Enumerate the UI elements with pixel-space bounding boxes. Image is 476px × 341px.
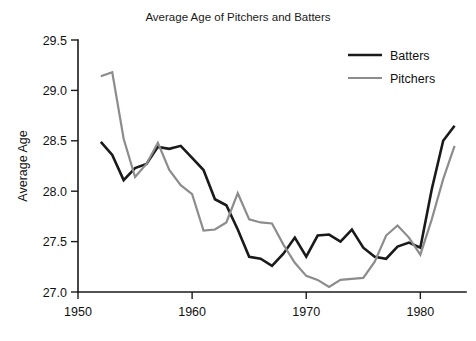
y-tick-label: 27.0 — [43, 286, 67, 300]
series-line-pitchers — [101, 72, 455, 287]
y-tick-label: 28.0 — [43, 185, 67, 199]
series-group — [101, 72, 455, 287]
chart-container: Average Age of Pitchers and Batters Aver… — [0, 0, 476, 341]
series-line-batters — [101, 126, 455, 266]
y-tick-label: 29.0 — [43, 84, 67, 98]
line-chart: Average Age of Pitchers and Batters Aver… — [0, 0, 476, 341]
y-axis-label: Average Age — [16, 130, 30, 201]
x-tick-label: 1980 — [406, 305, 434, 319]
x-tick-label: 1950 — [64, 305, 92, 319]
y-tick-label: 29.5 — [43, 34, 67, 48]
x-tick-group: 1950196019701980 — [64, 292, 434, 319]
legend-label-batters: Batters — [390, 49, 430, 63]
y-tick-label: 27.5 — [43, 235, 67, 249]
x-tick-label: 1960 — [178, 305, 206, 319]
chart-legend: BattersPitchers — [348, 49, 435, 86]
y-axis: 27.027.528.028.529.029.5 — [43, 34, 78, 300]
legend-label-pitchers: Pitchers — [390, 72, 435, 86]
x-tick-label: 1970 — [292, 305, 320, 319]
y-tick-group: 27.027.528.028.529.029.5 — [43, 34, 78, 300]
y-tick-label: 28.5 — [43, 134, 67, 148]
x-axis: 1950196019701980 — [64, 292, 466, 319]
chart-title: Average Age of Pitchers and Batters — [145, 11, 330, 23]
